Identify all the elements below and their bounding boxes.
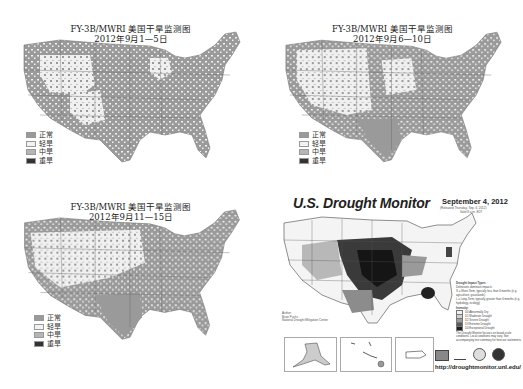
legend-item-light: 轻旱: [26, 140, 53, 149]
doc-seal-logo: [473, 348, 486, 361]
legend-item-moderate: 中旱: [26, 148, 53, 157]
alaska-inset: [284, 337, 337, 372]
legend-item-normal: 正常: [299, 131, 326, 140]
us-drought-map: [0, 195, 262, 389]
us-drought-map: [262, 0, 523, 195]
intensity-d4: D4 Exceptional Drought: [456, 326, 522, 330]
legend-item-severe: 重旱: [26, 157, 53, 166]
map-panel-sep11-15: FY-3B/MWRI 美国干旱监测图 2012年9月11—15日 正常 轻旱 中…: [0, 195, 262, 389]
legend-item-moderate: 中旱: [34, 331, 61, 340]
puerto-rico-inset: [395, 337, 434, 372]
us-drought-monitor-panel: U.S. Drought Monitor September 4, 2012 (…: [262, 195, 523, 389]
hawaii-inset: [340, 337, 392, 372]
legend-item-severe: 重旱: [34, 340, 61, 349]
hawaii-map: [341, 338, 391, 371]
ndmc-logo: [454, 350, 466, 360]
alaska-map: [285, 338, 336, 371]
us-drought-map: [0, 0, 262, 195]
map-legend: 正常 轻旱 中旱 重旱: [34, 314, 61, 348]
map-legend: 正常 轻旱 中旱 重旱: [299, 131, 326, 165]
noaa-logo: [492, 348, 505, 361]
dm-author: Author: Brian Fuchs National Drought Mit…: [282, 312, 328, 323]
legend-item-normal: 正常: [26, 131, 53, 140]
legend-item-severe: 重旱: [299, 157, 326, 166]
map-panel-sep6-10: FY-3B/MWRI 美国干旱监测图 2012年9月6—10日 正常 轻旱 中旱…: [262, 0, 523, 195]
legend-item-light: 轻旱: [34, 323, 61, 332]
map-panel-sep1-5: FY-3B/MWRI 美国干旱监测图 2012年9月1—5日 正常 轻旱: [0, 0, 262, 195]
legend-item-normal: 正常: [34, 314, 61, 323]
legend-item-light: 轻旱: [299, 140, 326, 149]
puerto-rico-map: [396, 338, 433, 371]
dm-url-link[interactable]: http://droughtmonitor.unl.edu/: [435, 364, 521, 370]
dm-legend: Drought Impact Types: Delineates dominan…: [456, 281, 522, 342]
legend-item-moderate: 中旱: [299, 148, 326, 157]
map-legend: 正常 轻旱 中旱 重旱: [26, 131, 53, 165]
usda-logo: [435, 350, 449, 361]
